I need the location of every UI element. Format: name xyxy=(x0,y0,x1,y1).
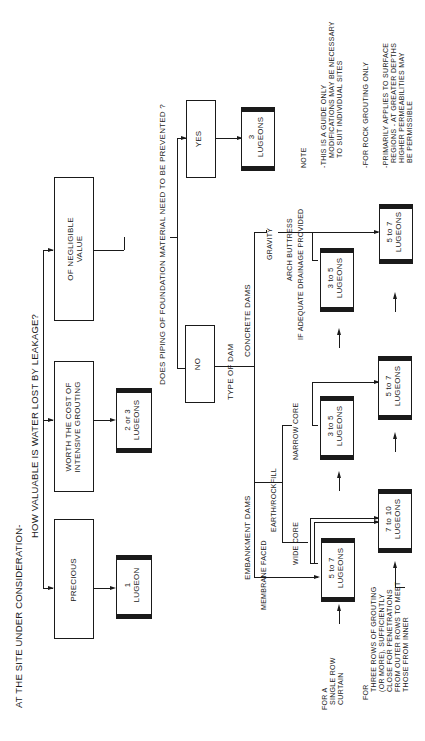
connector xyxy=(170,237,177,238)
connector xyxy=(312,382,313,425)
connector xyxy=(43,250,44,550)
connector xyxy=(310,563,318,564)
option-no: NO xyxy=(185,325,215,403)
connector xyxy=(395,438,396,452)
result-unit: LUGEONS xyxy=(132,395,141,445)
multi-row-label: FOR THREE ROWS OF GROUTING (OR MORE), SU… xyxy=(362,582,410,700)
connector xyxy=(312,232,378,233)
result-value: 3 to 5 xyxy=(326,401,335,451)
single-row-label: FOR A SINGLE ROW CURTAIN xyxy=(321,657,345,710)
connector xyxy=(339,610,340,624)
option-label: NO xyxy=(193,342,202,386)
result-3-lugeons: 3 LUGEONS xyxy=(241,107,275,171)
option-worth-grouting: WORTH THE COST OF INTENSIVE GROUTING xyxy=(54,361,94,492)
connector xyxy=(312,260,318,261)
note-item-1: -THIS IS A GUIDE ONLY MODIFICATIONS MAY … xyxy=(320,21,344,168)
connector xyxy=(43,550,44,588)
option-label: INTENSIVE GROUTING xyxy=(73,372,82,482)
connector xyxy=(310,518,311,563)
arrow-up-icon xyxy=(393,561,397,568)
option-negligible-value: OF NEGLIGIBLE VALUE xyxy=(54,177,94,321)
note-item-3: -PRIMARILY APPLIES TO SURFACE REGIONS - … xyxy=(382,43,414,168)
result-value: 1 xyxy=(123,560,132,610)
note-item-2: -FOR ROCK GROUTING ONLY xyxy=(362,62,370,168)
connector xyxy=(282,542,308,543)
result-value: 7 to 10 xyxy=(384,494,393,544)
connector xyxy=(266,577,318,578)
arch-buttress-label: ARCH BUTTRESS xyxy=(286,218,294,281)
diagram-title: AT THE SITE UNDER CONSIDERATION- xyxy=(14,524,25,708)
option-label: WORTH THE COST OF xyxy=(64,372,73,482)
option-label: VALUE xyxy=(75,201,84,297)
option-precious: PRECIOUS xyxy=(54,519,94,639)
question-water-value: HOW VALUABLE IS WATER LOST BY LEAKAGE? xyxy=(30,314,41,538)
result-concrete-single-3-to-5: 3 to 5 LUGEONS xyxy=(320,248,354,312)
result-unit: LUGEONS xyxy=(256,112,265,162)
connector xyxy=(310,518,378,519)
result-unit: LUGEONS xyxy=(393,361,402,411)
option-label: OF NEGLIGIBLE xyxy=(66,201,75,297)
earth-rockfill-label: EARTH/ROCKFILL xyxy=(270,468,278,532)
type-of-dam-label: TYPE OF DAM xyxy=(226,344,235,400)
wide-core-label: WIDE CORE xyxy=(292,522,300,565)
result-unit: LUGEONS xyxy=(393,494,402,544)
option-label: PRECIOUS xyxy=(69,530,78,630)
result-1-lugeon: 1 LUGEON xyxy=(116,555,152,619)
result-embankment-single-5-to-7: 5 to 7 LUGEONS xyxy=(321,538,355,602)
concrete-dams-label: CONCRETE DAMS xyxy=(243,284,252,357)
result-value: 5 to 7 xyxy=(327,543,336,593)
connector xyxy=(124,237,125,250)
connector xyxy=(312,382,378,383)
arrow-up-icon xyxy=(337,604,341,611)
connector xyxy=(282,425,292,426)
result-unit: LUGEONS xyxy=(335,401,344,451)
result-2-or-3-lugeons: 2 or 3 LUGEONS xyxy=(116,388,152,453)
connector xyxy=(94,250,124,251)
result-embankment-multi-5-to-7: 5 to 7 LUGEONS xyxy=(378,356,412,420)
connector xyxy=(254,232,255,577)
option-yes: YES xyxy=(186,100,216,178)
connector xyxy=(254,232,266,233)
result-concrete-multi-5-to-7: 5 to 7 LUGEONS xyxy=(379,204,413,264)
connector xyxy=(339,334,340,348)
result-unit: LUGEON xyxy=(132,560,141,610)
result-embankment-multi-7-to-10: 7 to 10 LUGEONS xyxy=(378,489,412,553)
connector xyxy=(339,477,340,491)
result-value: 2 or 3 xyxy=(123,395,132,445)
result-embankment-single-3-to-5: 3 to 5 LUGEONS xyxy=(320,396,354,460)
connector xyxy=(312,425,318,426)
arrow-right-icon xyxy=(314,575,320,579)
option-label: YES xyxy=(194,117,203,161)
gravity-label: GRAVITY xyxy=(266,228,274,260)
connector xyxy=(177,138,178,368)
result-value: 5 to 7 xyxy=(385,208,394,256)
membrane-faced-label: MEMBRANE FACED xyxy=(260,540,268,610)
arrow-up-icon xyxy=(393,292,397,299)
result-value: 3 to 5 xyxy=(326,253,335,303)
connector xyxy=(278,232,312,233)
narrow-core-label: NARROW CORE xyxy=(292,403,300,460)
embankment-dams-label: EMBANKMENT DAMS xyxy=(243,495,252,580)
result-value: 5 to 7 xyxy=(384,361,393,411)
result-unit: LUGEONS xyxy=(335,253,344,303)
drainage-note-label: IF ADEQUATE DRAINAGE PROVIDED xyxy=(297,209,305,340)
result-value: 3 xyxy=(247,112,256,162)
result-unit: LUGEONS xyxy=(336,543,345,593)
arrow-up-icon xyxy=(337,328,341,335)
result-unit: LUGEONS xyxy=(394,208,403,256)
arrow-up-icon xyxy=(337,471,341,478)
connector xyxy=(395,298,396,312)
question-piping: DOES PIPING OF FOUNDATION MATERIAL NEED … xyxy=(158,104,167,385)
arrow-up-icon xyxy=(393,432,397,439)
connector xyxy=(314,522,315,564)
connector xyxy=(282,425,283,542)
connector xyxy=(312,232,313,260)
note-heading: NOTE xyxy=(300,147,308,168)
grouting-decision-diagram: AT THE SITE UNDER CONSIDERATION- HOW VAL… xyxy=(0,0,425,741)
connector xyxy=(314,522,378,523)
connector xyxy=(254,482,282,483)
